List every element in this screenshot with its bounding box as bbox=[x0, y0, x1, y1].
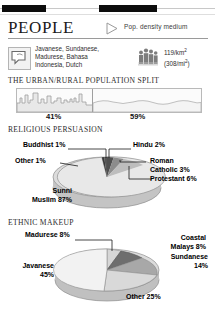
languages-line: Maduresе, Bahasa bbox=[35, 53, 127, 61]
rolling-hills-icon bbox=[93, 89, 201, 112]
triangle-right-icon bbox=[106, 21, 118, 39]
top-decorative-rule bbox=[0, 5, 215, 12]
urban-rural-split-chart bbox=[16, 88, 202, 113]
density-imperial: (308/mi2) bbox=[164, 58, 190, 69]
info-row: Javanese, Sundanese, Maduresе, Bahasa In… bbox=[0, 45, 215, 75]
pie-label-hindu: Hindu 2% bbox=[133, 141, 165, 150]
pie-label-sundanese: Sundanese 14% bbox=[148, 253, 208, 270]
pie-label-buddhist: Buddhist 1% bbox=[23, 141, 65, 150]
pie-label-line: Malays 8% bbox=[148, 243, 206, 252]
pie-label-line: Javanese bbox=[10, 262, 54, 271]
pie-label-line: Roman bbox=[150, 157, 190, 166]
pie-label-other: Other 25% bbox=[126, 293, 161, 302]
pie-label-madurese: Madurese 8% bbox=[25, 231, 70, 240]
section-heading-text: THE URBAN/RURAL POPULATION SPLIT bbox=[8, 76, 162, 85]
section-heading-urban-rural: THE URBAN/RURAL POPULATION SPLIT bbox=[8, 76, 207, 87]
pie-label-line: 45% bbox=[10, 271, 54, 280]
city-skyline-icon bbox=[17, 89, 93, 112]
urban-percent-label: 41% bbox=[46, 112, 61, 121]
top-hairline-secondary bbox=[0, 14, 215, 15]
leader-line-buddhist bbox=[68, 149, 106, 158]
pie-label-line: Muslim 87% bbox=[24, 196, 72, 205]
pie-label-line: Coastal bbox=[148, 234, 206, 243]
rural-percent-label: 59% bbox=[130, 112, 145, 121]
pie-label-javanese: Javanese 45% bbox=[10, 262, 54, 279]
population-density-text: 119/km2 (308/mi2) bbox=[164, 47, 190, 68]
people-infographic-page: PEOPLE Pop. density medium Javanese, Sun… bbox=[0, 0, 215, 309]
crowd-people-icon bbox=[137, 47, 159, 67]
languages-line: Javanese, Sundanese, bbox=[35, 45, 127, 53]
page-header: PEOPLE Pop. density medium bbox=[8, 19, 208, 41]
speech-bubble-icon bbox=[8, 47, 31, 70]
pie-label-coastal-malays: Coastal Malays 8% bbox=[148, 234, 206, 251]
header-underline bbox=[8, 38, 208, 39]
pie-label-line: Sundanese bbox=[148, 253, 208, 262]
languages-text: Javanese, Sundanese, Maduresе, Bahasa In… bbox=[35, 45, 127, 70]
density-metric: 119/km2 bbox=[164, 47, 190, 58]
page-subtitle: Pop. density medium bbox=[124, 23, 188, 30]
page-title: PEOPLE bbox=[8, 18, 74, 37]
pie-label-protestant: Protestant 6% bbox=[150, 175, 197, 184]
top-rule-segment bbox=[99, 5, 157, 12]
pie-label-line: Sunni bbox=[24, 187, 72, 196]
top-rule-segment bbox=[2, 5, 46, 12]
pie-label-sunni-muslim: Sunni Muslim 87% bbox=[24, 187, 72, 204]
pie-label-line: 14% bbox=[148, 262, 208, 271]
languages-line: Indonesia, Dutch bbox=[35, 61, 127, 69]
pie-label-roman-catholic: Roman Catholic 3% bbox=[150, 157, 190, 174]
pie-label-line: Catholic 3% bbox=[150, 166, 190, 175]
ethnic-pie-chart: Madurese 8% Coastal Malays 8% Sundanese … bbox=[0, 226, 215, 309]
pie-label-other: Other 1% bbox=[15, 157, 46, 166]
religion-pie-chart: Buddhist 1% Hindu 2% Other 1% Roman Cath… bbox=[0, 133, 215, 215]
urban-rural-labels: 41% 59% bbox=[16, 112, 200, 122]
